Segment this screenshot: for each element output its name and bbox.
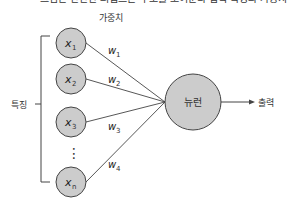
svg-text:x: x	[64, 73, 72, 86]
weight-w4: w 4	[108, 159, 121, 173]
input-node-1: x 1	[56, 28, 86, 58]
input-node-2: x 2	[56, 64, 86, 94]
output-label: 출력	[258, 97, 274, 108]
clipped-caption: 그림은 간단한 퍼셉트론 구조를 보여준다 입력 특징과 가중치	[40, 0, 287, 4]
svg-text:3: 3	[116, 127, 120, 135]
svg-text:뉴런: 뉴런	[184, 97, 202, 108]
svg-text:x: x	[64, 37, 72, 50]
features-bracket	[35, 36, 50, 182]
svg-text:x: x	[64, 116, 72, 129]
svg-text:x: x	[64, 176, 72, 189]
svg-text:n: n	[72, 183, 76, 191]
input-node-3: x 3	[56, 107, 86, 137]
svg-text:3: 3	[72, 123, 76, 131]
neuron-node: 뉴런	[165, 74, 221, 130]
ellipsis: ⋮	[67, 145, 81, 161]
output-arrow	[221, 100, 255, 105]
perceptron-diagram: 그림은 간단한 퍼셉트론 구조를 보여준다 입력 특징과 가중치 가중치 특징 …	[0, 0, 288, 210]
weight-w1: w 1	[108, 45, 120, 59]
svg-text:1: 1	[72, 44, 76, 52]
svg-text:4: 4	[116, 165, 121, 173]
weights-header: 가중치	[99, 12, 123, 23]
svg-text:2: 2	[116, 80, 120, 88]
features-label: 특징	[11, 100, 27, 110]
connections	[86, 43, 165, 182]
input-node-n: x n	[56, 167, 86, 197]
weight-w3: w 3	[108, 121, 120, 135]
svg-text:2: 2	[72, 80, 76, 88]
svg-text:1: 1	[116, 51, 120, 59]
